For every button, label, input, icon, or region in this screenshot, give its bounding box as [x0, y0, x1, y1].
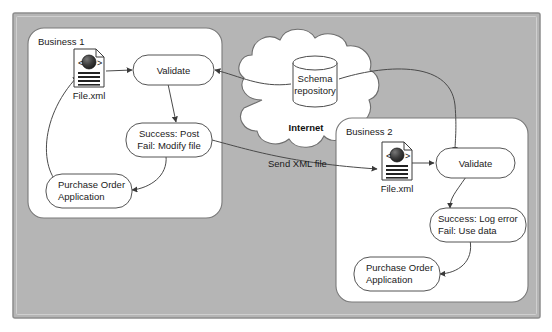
angle-bracket-close-icon: >	[405, 151, 410, 161]
business-2-outcome-line2: Fail: Use data	[438, 225, 497, 236]
doc-line	[386, 169, 408, 171]
business-2-application-line1: Purchase Order	[366, 262, 433, 273]
business-1-label: Business 1	[38, 36, 84, 47]
process-flow-diagram: Internet Business 1 Business 2 Schema re…	[0, 0, 552, 332]
business-1-validate-label: Validate	[157, 65, 191, 76]
business-2-file-caption: File.xml	[381, 183, 414, 194]
doc-line	[78, 84, 100, 86]
repository-label-line1: Schema	[298, 73, 334, 84]
doc-line	[386, 165, 408, 167]
business-1-outcome-line1: Success: Post	[139, 128, 200, 139]
business-2-validate-node[interactable]: Validate	[436, 148, 515, 178]
business-1-validate-node[interactable]: Validate	[133, 55, 214, 85]
doc-line	[78, 72, 100, 74]
diagram-root: Internet Business 1 Business 2 Schema re…	[0, 0, 552, 332]
business-2-validate-label: Validate	[459, 158, 493, 169]
business-1-outcome-node[interactable]: Success: Post Fail: Modify file	[126, 123, 212, 157]
globe-icon	[82, 55, 96, 69]
business-2-application-line2: Application	[366, 274, 412, 285]
angle-bracket-close-icon: >	[97, 58, 102, 68]
globe-icon	[390, 148, 404, 162]
business-2-outcome-line1: Success: Log error	[438, 213, 518, 224]
angle-bracket-open-icon: <	[78, 58, 83, 68]
business-1-file-caption: File.xml	[73, 90, 106, 101]
business-2-file-icon-group: < > File.xml	[381, 142, 414, 194]
business-1-application-line1: Purchase Order	[58, 179, 125, 190]
business-2-application-node[interactable]: Purchase Order Application	[354, 257, 440, 291]
internet-label: Internet	[289, 122, 325, 133]
business-1-application-line2: Application	[58, 191, 104, 202]
business-1-outcome-line2: Fail: Modify file	[137, 140, 200, 151]
schema-repository: Schema repository	[293, 56, 337, 107]
doc-line	[386, 173, 408, 175]
repository-label-line2: repository	[294, 85, 336, 96]
doc-line	[78, 80, 100, 82]
doc-line	[78, 76, 100, 78]
business-2-outcome-node[interactable]: Success: Log error Fail: Use data	[430, 208, 526, 242]
repository-top	[293, 56, 337, 70]
edge-label-send-xml-file: Send XML file	[268, 158, 327, 169]
doc-line	[386, 177, 408, 179]
business-1-application-node[interactable]: Purchase Order Application	[46, 174, 132, 208]
business-1-file-icon-group: < > File.xml	[73, 49, 106, 101]
business-2-label: Business 2	[346, 126, 392, 137]
angle-bracket-open-icon: <	[386, 151, 391, 161]
